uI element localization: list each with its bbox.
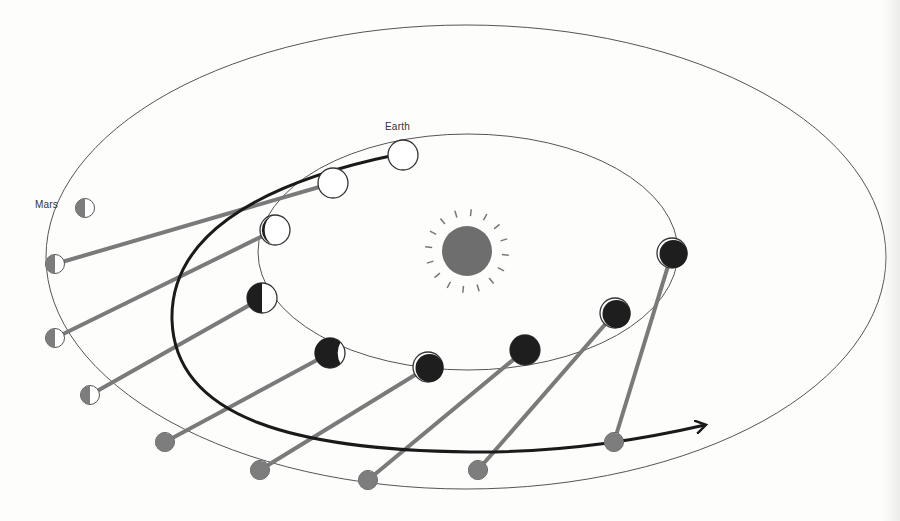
sun-ray (434, 273, 439, 277)
sun-ray (425, 247, 432, 248)
sun-ray (502, 254, 509, 255)
earth-position (657, 238, 688, 268)
diagram-canvas (0, 0, 900, 521)
earth-position (247, 283, 277, 313)
earth-position (413, 352, 444, 382)
mars-retrograde-diagram: Earth Mars (0, 0, 900, 521)
mars-position (46, 255, 65, 274)
sun-ray (477, 285, 479, 292)
sun-disc (442, 226, 492, 276)
earth-position (318, 168, 348, 198)
earth-position (510, 335, 540, 365)
sun-ray (484, 214, 487, 220)
earth-position (315, 338, 345, 368)
sight-line (614, 253, 672, 442)
sun-ray (430, 231, 436, 234)
sight-line (165, 353, 330, 442)
mars-position (468, 460, 487, 479)
mars-position (81, 386, 100, 405)
sun-ray (489, 278, 493, 283)
sun-ray (455, 211, 457, 218)
sun-ray (470, 209, 471, 216)
page-edge-shadow (882, 0, 900, 521)
sun-ray (498, 268, 504, 271)
mars-position (76, 199, 95, 218)
sun-ray (427, 261, 434, 263)
sight-line (260, 367, 428, 470)
mars-position (358, 470, 377, 489)
sight-lines (55, 183, 672, 480)
mars-label: Mars (35, 199, 58, 210)
earth-position (260, 215, 290, 245)
sun-ray (494, 224, 499, 228)
earth-position (600, 298, 631, 328)
mars-position (250, 460, 269, 479)
sun-ray (501, 239, 508, 241)
sun-icon (425, 209, 509, 293)
sight-line (55, 230, 275, 338)
sight-line (478, 313, 615, 470)
mars-position (46, 329, 65, 348)
earth-position (388, 140, 418, 170)
mars-position (155, 432, 174, 451)
mars-position (604, 432, 623, 451)
sun-ray (447, 282, 450, 288)
earth-label: Earth (385, 121, 410, 132)
sun-ray (463, 286, 464, 293)
sun-ray (440, 218, 444, 223)
